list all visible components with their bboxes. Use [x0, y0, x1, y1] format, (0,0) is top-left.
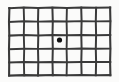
- figure-canvas: Hand-drawn grid of seven columns by five…: [0, 0, 119, 82]
- grid-line-v-1: [24, 8, 25, 76]
- amsler-grid-figure: [0, 0, 119, 82]
- fixation-dot: [57, 37, 62, 42]
